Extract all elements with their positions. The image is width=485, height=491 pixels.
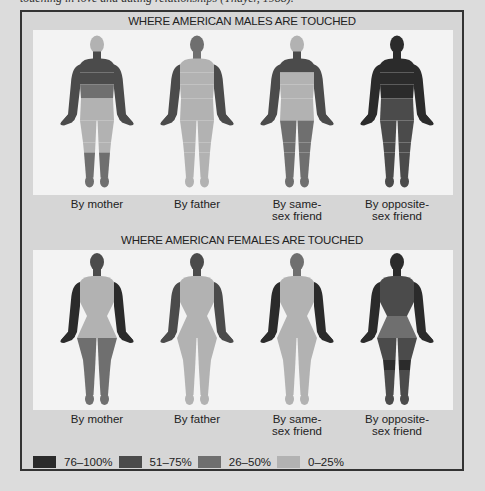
females-section-title: WHERE AMERICAN FEMALES ARE TOUCHED: [22, 234, 462, 246]
caption-fragment: touching in love and dating relationship…: [20, 0, 294, 6]
female-figure-by-mother: [47, 250, 147, 410]
male-figure-by-mother: [47, 30, 147, 195]
legend-item-76-100: 76–100%: [33, 456, 113, 468]
male-label-by-mother: By mother: [47, 198, 147, 210]
male-figure-by-opposite-sex-friend: [347, 30, 447, 195]
female-figure-by-same-sex-friend: [247, 250, 347, 410]
legend-label-51-75: 51–75%: [150, 456, 192, 468]
legend-swatch-76-100: [33, 456, 56, 468]
female-label-by-opposite-sex-friend: By opposite-sex friend: [347, 413, 447, 437]
male-label-by-father: By father: [147, 198, 247, 210]
males-section-title: WHERE AMERICAN MALES ARE TOUCHED: [22, 15, 462, 27]
legend-swatch-51-75: [119, 456, 142, 468]
legend-label-26-50: 26–50%: [229, 456, 271, 468]
legend-label-76-100: 76–100%: [64, 456, 113, 468]
females-panel: [33, 250, 453, 410]
legend-swatch-0-25: [277, 456, 300, 468]
female-label-by-father: By father: [147, 413, 247, 425]
legend-item-0-25: 0–25%: [277, 456, 344, 468]
legend: 76–100% 51–75% 26–50% 0–25%: [33, 455, 350, 469]
female-figure-by-father: [147, 250, 247, 410]
female-figure-by-opposite-sex-friend: [347, 250, 447, 410]
male-figure-by-father: [147, 30, 247, 195]
males-panel: [33, 30, 453, 195]
male-label-by-opposite-sex-friend: By opposite-sex friend: [347, 198, 447, 222]
legend-item-51-75: 51–75%: [119, 456, 192, 468]
legend-label-0-25: 0–25%: [308, 456, 344, 468]
female-label-by-mother: By mother: [47, 413, 147, 425]
legend-swatch-26-50: [198, 456, 221, 468]
figure-frame: WHERE AMERICAN MALES ARE TOUCHED: [20, 10, 464, 471]
female-label-by-same-sex-friend: By same-sex friend: [247, 413, 347, 437]
male-figure-by-same-sex-friend: [247, 30, 347, 195]
male-label-by-same-sex-friend: By same-sex friend: [247, 198, 347, 222]
legend-item-26-50: 26–50%: [198, 456, 271, 468]
